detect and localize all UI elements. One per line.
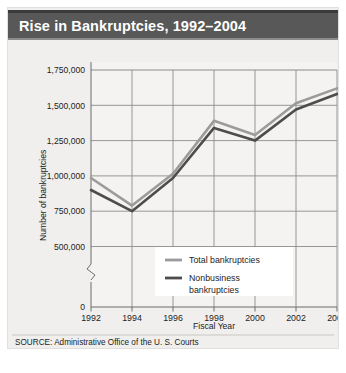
- y-tick-label: 0: [80, 302, 85, 312]
- y-tick-labels: 0500,000750,0001,000,0001,250,0001,500,0…: [47, 65, 85, 312]
- plot-area: 0500,000750,0001,000,0001,250,0001,500,0…: [8, 8, 338, 348]
- legend-label-nonbusiness-bankruptcies-line1: Nonbusiness: [189, 273, 240, 283]
- x-tick-label: 2004: [327, 313, 338, 323]
- legend-label-total-bankruptcies: Total bankruptcies: [189, 255, 261, 265]
- x-axis-title: Fiscal Year: [193, 321, 235, 331]
- y-tick-label: 1,000,000: [47, 171, 85, 181]
- x-tick-label: 2000: [245, 313, 265, 323]
- x-tick-label: 1994: [122, 313, 142, 323]
- x-tick-label: 2002: [286, 313, 306, 323]
- line-chart-svg: 0500,000750,0001,000,0001,250,0001,500,0…: [8, 8, 338, 348]
- source-note: SOURCE: Administrative Office of the U. …: [15, 338, 199, 347]
- chart-page: Rise in Bankruptcies, 1992–2004: [0, 0, 346, 373]
- legend-label-nonbusiness-bankruptcies-line2: bankruptcies: [189, 285, 239, 295]
- x-tick-label: 1996: [163, 313, 183, 323]
- y-axis-title: Number of bankruptcies: [38, 150, 48, 241]
- y-tick-label: 1,750,000: [47, 65, 85, 75]
- x-tick-label: 1992: [81, 313, 101, 323]
- y-tick-label: 1,250,000: [47, 136, 85, 146]
- chart-legend: Total bankruptcies Nonbusiness bankruptc…: [155, 247, 293, 296]
- y-tick-label: 1,500,000: [47, 101, 85, 111]
- x-tick-marks: [91, 307, 337, 312]
- figure-card: Rise in Bankruptcies, 1992–2004: [8, 8, 338, 348]
- y-tick-label: 750,000: [54, 206, 85, 216]
- y-tick-label: 500,000: [54, 242, 85, 252]
